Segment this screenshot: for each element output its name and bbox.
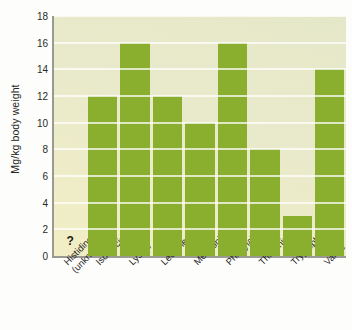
bar[interactable] [315, 69, 345, 256]
bar-slot[interactable] [249, 16, 281, 256]
bar-slot[interactable] [281, 16, 313, 256]
y-axis-tick-label: 2 [26, 224, 48, 235]
bar-slot[interactable]: ? [54, 16, 86, 256]
y-axis-tick-label: 14 [26, 64, 48, 75]
x-axis-tick-labels: Histidine(unknown)IsoleucineLysineLeucin… [52, 258, 344, 330]
bar[interactable] [283, 216, 313, 256]
bar[interactable] [88, 96, 118, 256]
y-axis-tick-label: 18 [26, 11, 48, 22]
bar[interactable] [218, 43, 248, 256]
plot-inner: ? [54, 16, 346, 256]
x-label-slot: Isoleucine [84, 258, 116, 330]
unknown-value-marker: ? [67, 234, 74, 248]
bar[interactable] [153, 96, 183, 256]
y-axis-tick-label: 4 [26, 197, 48, 208]
bar-slot[interactable] [151, 16, 183, 256]
y-axis-tick-label: 12 [26, 91, 48, 102]
bar[interactable] [250, 149, 280, 256]
y-axis-tick-label: 10 [26, 117, 48, 128]
y-axis-title-text: Mg/kg body weight [9, 84, 21, 173]
bar-slot[interactable] [86, 16, 118, 256]
bar[interactable] [185, 123, 215, 256]
y-axis-tick-label: 6 [26, 171, 48, 182]
y-axis-tick-label: 8 [26, 144, 48, 155]
x-label-slot: Valine [312, 258, 344, 330]
bar-series: ? [54, 16, 346, 256]
bar[interactable] [120, 43, 150, 256]
y-axis-tick-labels: 181614121086420 [26, 16, 48, 256]
bar-slot[interactable] [184, 16, 216, 256]
x-label-slot: Threonine [247, 258, 279, 330]
x-label-slot: Histidine(unknown) [52, 258, 84, 330]
x-label-slot: Phenylalanine [214, 258, 246, 330]
bar-chart-figure: Mg/kg body weight 181614121086420 ? Hist… [0, 0, 352, 330]
y-axis-tick-label: 0 [26, 251, 48, 262]
x-label-slot: Tryptophan [279, 258, 311, 330]
bar-slot[interactable] [216, 16, 248, 256]
x-label-slot: Leucine [149, 258, 181, 330]
bar-slot[interactable] [119, 16, 151, 256]
y-axis-title: Mg/kg body weight [4, 0, 26, 258]
y-axis-tick-label: 16 [26, 37, 48, 48]
bar-slot[interactable] [314, 16, 346, 256]
x-label-slot: Methionine [182, 258, 214, 330]
x-label-slot: Lysine [117, 258, 149, 330]
plot-area: ? [52, 16, 346, 258]
